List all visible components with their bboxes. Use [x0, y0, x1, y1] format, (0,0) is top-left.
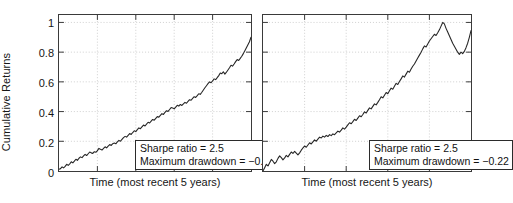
- annotation-box-right: Sharpe ratio = 2.5 Maximum drawdown = −0…: [369, 140, 513, 170]
- y-tick-label-left: 0.4: [39, 107, 54, 119]
- y-tick-label-left: 0.6: [39, 77, 54, 89]
- chart-panel-left: Cumulative Returns 00.20.40.60.81 Sharpe…: [0, 0, 256, 203]
- sharpe-ratio-text-right: Sharpe ratio = 2.5: [374, 142, 509, 155]
- chart-panel-right: Sharpe ratio = 2.5 Maximum drawdown = −0…: [256, 0, 487, 203]
- y-tick-label-left: 0.8: [39, 47, 54, 59]
- y-tick-label-left: 0.2: [39, 137, 54, 149]
- y-tick-label-left: 0: [48, 167, 54, 179]
- x-axis-label-right: Time (most recent 5 years): [262, 176, 472, 188]
- x-axis-label-left: Time (most recent 5 years): [58, 176, 252, 188]
- y-axis-label-left: Cumulative Returns: [0, 52, 12, 150]
- max-drawdown-text-right: Maximum drawdown = −0.22: [374, 155, 509, 168]
- y-tick-label-left: 1: [48, 17, 54, 29]
